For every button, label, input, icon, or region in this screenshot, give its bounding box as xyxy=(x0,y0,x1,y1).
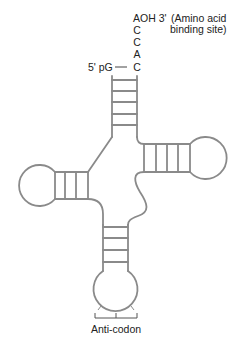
anticodon-stem xyxy=(103,225,128,271)
t-arm xyxy=(144,137,227,179)
cca-tail-nucleotide-4: C xyxy=(133,61,141,73)
acceptor-to-t-arm-connector xyxy=(137,137,144,144)
acceptor-stem xyxy=(112,76,137,137)
d-loop xyxy=(19,165,55,206)
d-arm-to-anticodon-connector xyxy=(88,199,103,225)
three-prime-end-label: AOH 3' xyxy=(133,12,167,24)
t-loop xyxy=(190,137,227,179)
anticodon-loop xyxy=(94,271,138,311)
acceptor-to-d-arm-connector xyxy=(88,137,112,172)
d-arm xyxy=(19,165,88,206)
cca-tail-nucleotide-3: A xyxy=(133,48,140,60)
cca-tail-nucleotide-2: C xyxy=(133,36,141,48)
trna-cloverleaf-diagram: AOH 3' (Amino acid binding site) C C A C… xyxy=(0,0,242,348)
variable-loop xyxy=(128,172,147,225)
five-prime-end-label: 5' pG xyxy=(88,61,113,73)
anticodon-label: Anti-codon xyxy=(91,323,141,335)
amino-acid-site-label-line2: binding site) xyxy=(170,23,227,35)
cca-tail-nucleotide-1: C xyxy=(133,24,141,36)
